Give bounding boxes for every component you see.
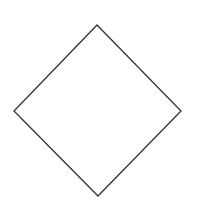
diagram-canvas xyxy=(0,0,205,216)
diamond-shape xyxy=(14,25,181,196)
